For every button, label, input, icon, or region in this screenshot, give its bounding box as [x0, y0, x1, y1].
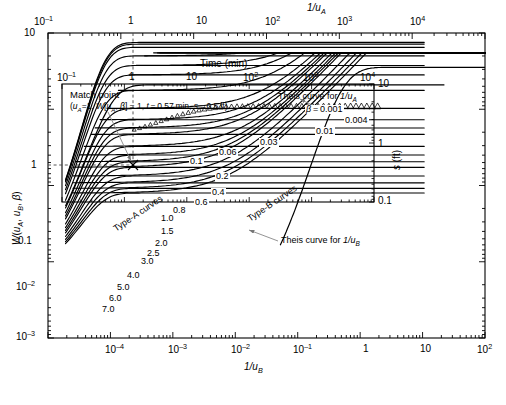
top-tick-label: 10 — [196, 16, 207, 26]
annotation-leaders — [108, 99, 318, 241]
top-tick-label: 102 — [265, 15, 280, 27]
beta-label: 0.1 — [189, 157, 204, 166]
bottom-tick-label: 10 — [420, 344, 431, 354]
beta-label: 0.06 — [218, 148, 238, 157]
theis-curve-b-label: Theis curve for 1/uB — [281, 236, 360, 247]
left-tick-label: 10–2 — [16, 280, 35, 292]
beta-label: 4.0 — [126, 271, 141, 280]
top-tick-label: 104 — [410, 15, 425, 27]
left-tick-label: 10 — [24, 28, 35, 38]
bottom-tick-label: 102 — [477, 343, 492, 355]
outer-right-ticks — [479, 33, 485, 338]
bottom-tick-label: 10–3 — [168, 343, 187, 355]
left-tick-label: 1 — [31, 160, 37, 170]
inner-top-tick-label: 1 — [129, 72, 135, 82]
bottom-tick-label: 1 — [363, 344, 369, 354]
axis-label-bottom: 1/uB — [244, 362, 263, 374]
inner-right-ticks — [369, 84, 374, 202]
outer-bottom-ticks — [48, 332, 485, 338]
inner-right-tick-label: 1 — [378, 139, 384, 149]
beta-label: 0.03 — [259, 138, 279, 147]
bottom-tick-label: 10–4 — [105, 343, 124, 355]
bottom-tick-label: 10–1 — [293, 343, 312, 355]
left-tick-label: 10–3 — [16, 330, 35, 342]
inner-axis-label-time: Time (min) — [200, 59, 247, 69]
theis-curve-a-label: Theis curve for 1/uA — [278, 92, 357, 103]
inner-top-tick-label: 103 — [303, 71, 318, 83]
figure-root: 1/uA 10–1 1 10 102 103 104 Time (min) 10… — [0, 0, 506, 405]
top-tick-label: 1 — [128, 16, 134, 26]
match-point-values: (uA=1, W[uA, β] = 1, t = 0.57 min, s = 0… — [70, 102, 228, 113]
inner-axis-label-drawdown: s (ft) — [392, 150, 402, 170]
beta-label: 6.0 — [108, 294, 123, 303]
beta-label: 0.004 — [344, 116, 369, 125]
outer-left-ticks — [48, 33, 54, 338]
outer-top-ticks — [48, 33, 485, 39]
inner-top-tick-label: 10 — [186, 72, 197, 82]
top-tick-label: 10–1 — [34, 15, 53, 27]
beta-label: 7.0 — [101, 305, 116, 314]
beta-label: 2.0 — [154, 239, 169, 248]
inner-top-tick-label: 102 — [243, 71, 258, 83]
axis-label-top: 1/uA — [307, 3, 326, 15]
beta-label: 0.6 — [194, 198, 209, 207]
beta-label: 1.5 — [160, 227, 175, 236]
beta-label: 0.2 — [215, 172, 230, 181]
inner-top-tick-label: 104 — [360, 71, 375, 83]
axis-label-left: W(uA, uB, β) — [12, 191, 24, 245]
beta-label: 3.0 — [140, 257, 155, 266]
bottom-tick-label: 10–2 — [231, 343, 250, 355]
beta-label: 1.0 — [160, 214, 175, 223]
beta-label: 0.01 — [315, 127, 335, 136]
beta-label: 5.0 — [116, 283, 131, 292]
inner-right-tick-label: 10 — [378, 79, 389, 89]
match-point-title: Match point — [70, 90, 119, 100]
inner-top-tick-label: 10–1 — [57, 71, 76, 83]
inner-right-tick-label: 0.1 — [378, 196, 392, 206]
beta-label: 0.4 — [211, 188, 226, 197]
top-tick-label: 103 — [337, 15, 352, 27]
beta-label: β = 0.001 — [305, 105, 344, 114]
